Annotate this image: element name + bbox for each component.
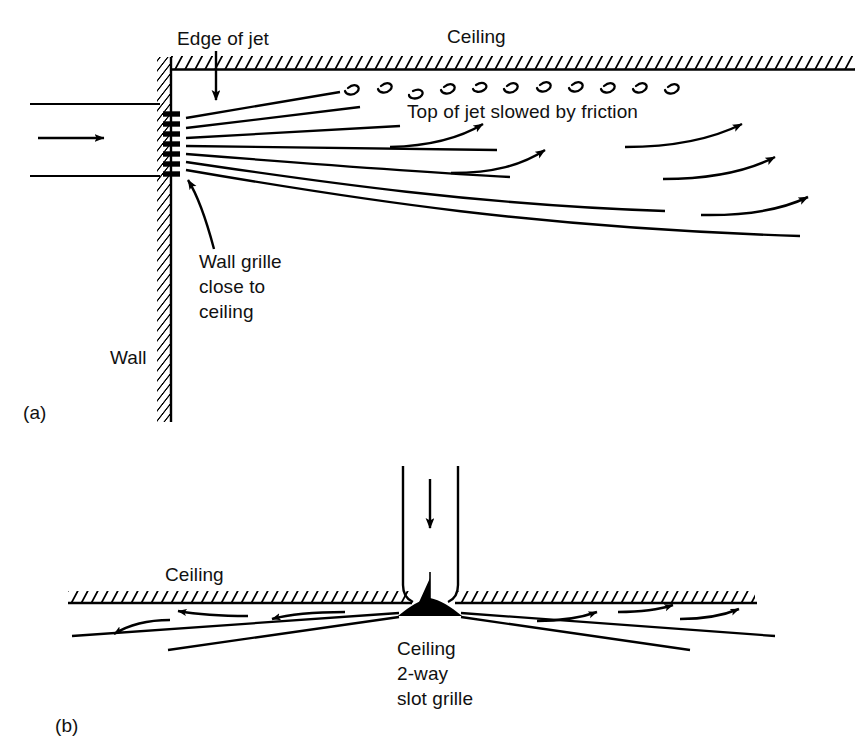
panel-tag-a: (a) [23, 400, 47, 425]
panel-tag-b: (b) [55, 713, 79, 738]
right-flow-arrows-b [537, 605, 739, 621]
ceiling-hatch-b-left [68, 591, 412, 603]
wall-grille-pointer [188, 180, 214, 249]
label-top-of-jet: Top of jet slowed by friction [407, 99, 638, 124]
label-ceiling-a: Ceiling [447, 24, 506, 49]
wall-grille-bars [163, 114, 180, 174]
ceiling-hatch-b-right [455, 591, 757, 603]
ceiling-hatch-a [168, 56, 855, 70]
supply-duct-a [30, 104, 160, 176]
label-wall: Wall [110, 345, 147, 370]
panel-b-graphics [68, 466, 775, 650]
turbulence-eddies [345, 82, 679, 98]
label-wall-grille: Wall grille close to ceiling [199, 249, 282, 324]
label-ceiling-b: Ceiling [165, 562, 224, 587]
room-flow-arrows-a [390, 124, 808, 215]
label-edge-of-jet: Edge of jet [177, 26, 269, 51]
label-slot-grille: Ceiling 2-way slot grille [397, 636, 473, 711]
figure-root: Edge of jet Ceiling Top of jet slowed by… [0, 0, 855, 756]
